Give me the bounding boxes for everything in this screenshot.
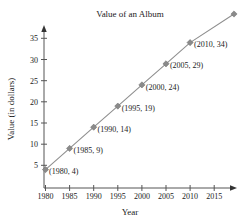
y-tick-label: 15 — [30, 119, 38, 128]
point-label: (2010, 34) — [194, 40, 228, 49]
chart-title: Value of an Album — [96, 9, 164, 19]
point-label: (1985, 9) — [74, 146, 104, 155]
chart-container: 35 30 25 20 15 10 5 1980 1985 1990 1995 … — [0, 0, 249, 224]
y-tick-label: 20 — [30, 98, 38, 107]
line-chart: 35 30 25 20 15 10 5 1980 1985 1990 1995 … — [0, 0, 249, 224]
x-tick-label: 2015 — [206, 192, 222, 201]
x-tick-label: 2010 — [182, 192, 198, 201]
y-tick-label: 10 — [30, 140, 38, 149]
y-tick-label: 5 — [34, 161, 38, 170]
point-label: (1995, 19) — [122, 104, 156, 113]
point-label: (2005, 29) — [170, 61, 204, 70]
x-tick-label: 1990 — [86, 192, 102, 201]
x-axis-title: Year — [122, 207, 139, 217]
y-tick-label: 35 — [30, 34, 38, 43]
x-tick-label: 1985 — [62, 192, 78, 201]
point-label: (1980, 4) — [49, 167, 79, 176]
x-axis-arrow-icon — [230, 185, 237, 190]
data-markers — [42, 11, 237, 173]
y-axis-title: Value (in dollars) — [6, 78, 16, 140]
y-tick-label: 30 — [30, 56, 38, 65]
x-tick-label: 1980 — [38, 192, 54, 201]
x-tick-label: 2000 — [134, 192, 150, 201]
y-axis-arrow-icon — [41, 25, 46, 32]
point-label: (1990, 14) — [98, 125, 132, 134]
x-tick-label: 1995 — [110, 192, 126, 201]
point-label: (2000, 24) — [146, 83, 180, 92]
x-tick-label: 2005 — [158, 192, 174, 201]
y-tick-label: 25 — [30, 77, 38, 86]
